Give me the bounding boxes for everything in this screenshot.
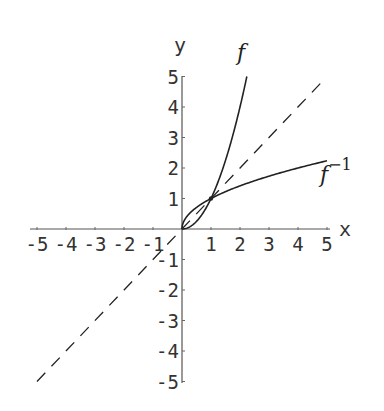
y-tick-label: 5 — [168, 66, 179, 88]
intersection-point — [209, 196, 213, 200]
f-inverse-label-superscript: −1 — [328, 155, 352, 174]
f-inverse-label: f−1 — [318, 155, 352, 187]
function-inverse-plot: -5-4-3-2-112345 -5-4-3-2-112345 x y f f−… — [0, 0, 384, 411]
x-tick-label: 4 — [292, 233, 303, 255]
x-tick-label: -2 — [113, 233, 136, 255]
y-tick-label: 1 — [168, 188, 179, 210]
x-tick-labels: -5-4-3-2-112345 — [26, 233, 333, 255]
y-tick-label: -2 — [156, 279, 179, 301]
y-tick-label: 2 — [168, 157, 179, 179]
f-label: f — [235, 40, 249, 65]
x-tick-label: 2 — [234, 233, 245, 255]
y-tick-label: 3 — [168, 127, 179, 149]
series-identity — [37, 83, 321, 382]
y-tick-label: -4 — [156, 340, 179, 362]
series-f-inverse — [182, 161, 327, 229]
x-tick-label: 3 — [263, 233, 274, 255]
axes: -5-4-3-2-112345 -5-4-3-2-112345 x y — [26, 33, 351, 393]
x-tick-label: -3 — [84, 233, 107, 255]
x-tick-label: -5 — [26, 233, 49, 255]
y-tick-label: 4 — [168, 96, 179, 118]
series-labels: f f−1 — [235, 40, 352, 187]
x-tick-label: 1 — [205, 233, 216, 255]
x-axis-label: x — [339, 217, 351, 241]
y-tick-label: -5 — [156, 371, 179, 393]
y-tick-label: -3 — [156, 310, 179, 332]
x-tick-label: -4 — [55, 233, 78, 255]
series-f — [182, 77, 247, 230]
x-tick-label: 5 — [321, 233, 332, 255]
y-axis-label: y — [174, 33, 186, 57]
